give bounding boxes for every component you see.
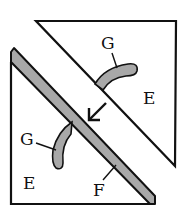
diagram-canvas: G E G E F bbox=[0, 0, 196, 212]
lower-g-leader bbox=[36, 143, 56, 150]
label-upper-e: E bbox=[143, 88, 155, 108]
label-strip-f: F bbox=[93, 180, 105, 200]
label-lower-e: E bbox=[23, 173, 35, 193]
arrow-down-left-icon bbox=[89, 103, 106, 120]
lower-g-element bbox=[53, 122, 72, 169]
label-lower-g: G bbox=[20, 129, 34, 149]
diagram-svg: G E G E F bbox=[0, 0, 196, 212]
label-upper-g: G bbox=[101, 33, 115, 53]
f-leader bbox=[103, 165, 116, 180]
